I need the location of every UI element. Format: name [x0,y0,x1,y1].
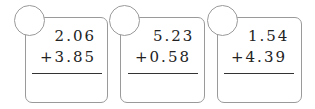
top-number: 1.54 [248,27,289,45]
sum-line [224,73,294,74]
bottom-number: +4.39 [231,48,287,66]
answer-circle[interactable] [207,5,238,36]
addition-problem-3: 1.54 +4.39 [0,0,315,109]
